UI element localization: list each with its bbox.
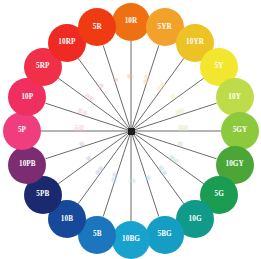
hue-disc-label: 5G	[214, 191, 223, 198]
hue-disc-label: 10G	[189, 216, 202, 223]
hue-disc-label: 10R	[125, 18, 138, 25]
hue-disc-label: 10RP	[58, 39, 75, 46]
hue-disc-10y[interactable]: 10Y	[216, 78, 254, 116]
inner-hue-name-5p: 赤紫	[68, 126, 90, 132]
hue-disc-label: 5Y	[215, 63, 224, 70]
hue-disc-label: 5B	[93, 231, 102, 238]
hue-disc-10pb[interactable]: 10PB	[8, 146, 46, 184]
hue-disc-label: 5PB	[36, 191, 49, 198]
hue-disc-label: 5GY	[233, 127, 248, 134]
hue-disc-label: 10Y	[228, 94, 241, 101]
hue-disc-label: 5R	[93, 24, 102, 31]
inner-hue-name-5gy: 黄緑	[172, 126, 194, 132]
hue-disc-label: 10GY	[225, 161, 243, 168]
hue-disc-label: 10YR	[186, 39, 204, 46]
hue-disc-label: 5RP	[36, 63, 49, 70]
hue-disc-label: 10P	[21, 94, 33, 101]
hue-disc-label: 10B	[61, 216, 73, 223]
hue-disc-label: 10PB	[19, 161, 36, 168]
hue-disc-label: 5P	[18, 127, 26, 134]
hue-disc-5gy[interactable]: 5GY	[221, 112, 259, 150]
center-hub	[128, 128, 135, 135]
hue-disc-5p[interactable]: 5P	[3, 112, 41, 150]
inner-hue-name-10bg: 青	[128, 170, 134, 192]
hue-disc-label: 5BG	[158, 231, 172, 238]
hue-disc-10r[interactable]: 10R	[112, 3, 150, 41]
hue-disc-label: 10BG	[122, 236, 140, 243]
hue-disc-10bg[interactable]: 10BG	[112, 221, 150, 259]
munsell-hue-circle: 赤黄赤赤黄黄緑黄黄緑緑青緑緑青青青紫青青紫紫紫赤紫紫赤赤紫赤赤 10R5YR10…	[0, 0, 261, 259]
hue-disc-label: 5YR	[158, 24, 172, 31]
hue-disc-5bg[interactable]: 5BG	[146, 216, 184, 254]
inner-hue-name-10r: 赤	[128, 66, 134, 88]
